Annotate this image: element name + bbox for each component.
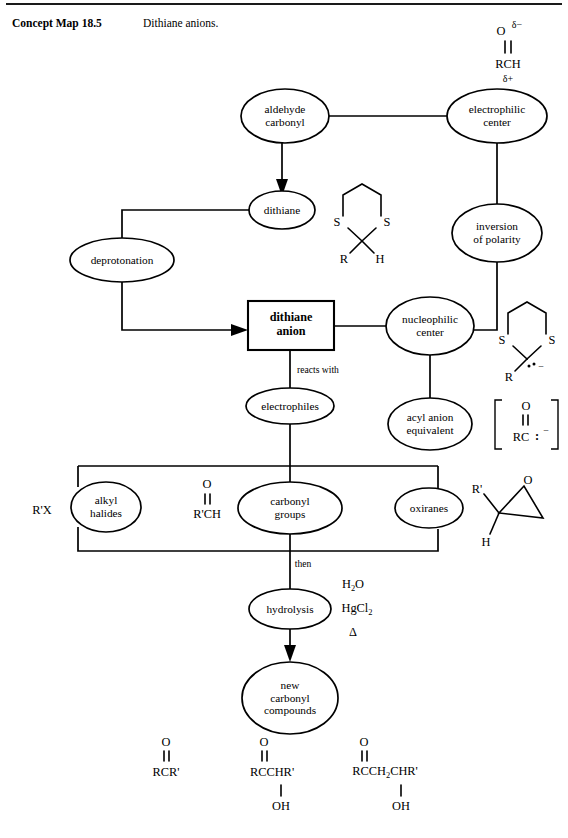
- condition-water: H2O: [342, 577, 364, 592]
- edge-label-reacts-with: reacts with: [296, 364, 340, 375]
- node-aldehyde-carbonyl[interactable]: [241, 89, 329, 143]
- node-new-carbonyl-compounds[interactable]: [242, 662, 338, 734]
- dithiane-substituent-r: R: [340, 252, 348, 267]
- acyl-anion-charge: −: [543, 425, 549, 436]
- product2-body: RCCHR': [250, 765, 294, 780]
- oxirane-substituent-h: H: [482, 535, 491, 550]
- arrowhead-hydrolysis-to-products: [284, 645, 296, 662]
- product3-oxygen: O: [360, 735, 369, 750]
- edge-dithiane-to-deprotonation: [122, 210, 251, 238]
- oxirane-substituent-r: R': [472, 482, 483, 497]
- reagent-carbonyl-body: R'CH: [193, 507, 221, 522]
- product2-oxygen: O: [260, 735, 269, 750]
- product1-body: RCR': [152, 765, 179, 780]
- aldehyde-oxygen-atom: O: [497, 24, 506, 39]
- dithiane-sulfur-left: S: [334, 215, 341, 230]
- aldehyde-delta-minus: δ−: [512, 19, 522, 30]
- dithiane-anion-substituent-r: R: [505, 370, 513, 385]
- diagram-canvas: [0, 0, 568, 838]
- dithiane-anion-sulfur-left: S: [499, 333, 506, 348]
- product2-hydroxyl: OH: [272, 799, 290, 814]
- acyl-anion-body: RC: [513, 430, 530, 445]
- arrowhead-deprotonation-to-anion: [231, 324, 248, 336]
- condition-mercuric-chloride: HgCl2: [341, 601, 372, 616]
- aldehyde-body: RCH: [495, 57, 520, 72]
- aldehyde-delta-plus: δ+: [503, 73, 513, 84]
- edge-label-then: then: [294, 558, 313, 569]
- formula-alkyl-halide: R'X: [32, 504, 51, 517]
- edge-inversion-to-nucleophilic: [470, 262, 497, 330]
- dithiane-substituent-h: H: [376, 252, 385, 267]
- dithiane-anion-sulfur-right: S: [549, 333, 556, 348]
- edge-deprotonation-to-dithiane-anion: [122, 282, 234, 330]
- bracket-right-acyl: [551, 400, 558, 449]
- node-electrophiles[interactable]: [246, 388, 334, 424]
- node-hydrolysis[interactable]: [249, 589, 331, 629]
- node-electrophilic-center[interactable]: [447, 89, 547, 143]
- acyl-anion-lone-pair: :: [535, 429, 539, 444]
- reagent-carbonyl-oxygen: O: [203, 477, 212, 492]
- dithiane-sulfur-right: S: [384, 215, 391, 230]
- product3-body: RCCH2CHR': [352, 764, 418, 779]
- oxirane-oxygen: O: [524, 473, 533, 488]
- node-dithiane[interactable]: [249, 191, 315, 229]
- node-oxiranes[interactable]: [395, 488, 463, 528]
- acyl-anion-oxygen: O: [522, 399, 531, 414]
- node-dithiane-anion[interactable]: [248, 301, 334, 350]
- node-acyl-anion-equivalent[interactable]: [388, 398, 472, 450]
- node-alkyl-halides[interactable]: [71, 482, 141, 532]
- product3-hydroxyl: OH: [392, 799, 410, 814]
- condition-heat: Δ: [349, 625, 357, 640]
- node-nucleophilic-center[interactable]: [386, 297, 474, 355]
- node-inversion-of-polarity[interactable]: [452, 204, 542, 262]
- dithiane-anion-charge: −: [538, 361, 544, 372]
- structure-dithiane-ring: [343, 184, 381, 253]
- structure-oxirane: [484, 486, 543, 534]
- node-carbonyl-groups[interactable]: [238, 482, 342, 534]
- edge-reagent-bottom-bus: [78, 527, 438, 551]
- bracket-left-acyl: [495, 400, 502, 449]
- product1-oxygen: O: [162, 735, 171, 750]
- concept-map-page: Concept Map 18.5 Dithiane anions.: [0, 0, 568, 838]
- node-deprotonation[interactable]: [70, 238, 174, 282]
